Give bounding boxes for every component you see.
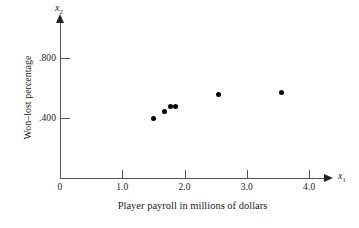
x-axis-tick-label: 0 bbox=[45, 182, 75, 193]
y-axis-tick-label: .800 bbox=[28, 53, 56, 63]
y-axis-variable-subscript: 2 bbox=[59, 8, 62, 15]
x-axis-caption: Player payroll in millions of dollars bbox=[60, 200, 325, 211]
data-point bbox=[162, 109, 167, 114]
x-axis-tick-label: 4.0 bbox=[294, 182, 324, 193]
data-point bbox=[151, 116, 156, 121]
y-axis-caption: Won–lost percentage bbox=[22, 28, 33, 168]
y-axis-line bbox=[60, 22, 61, 179]
x-axis-variable-subscript: 1 bbox=[342, 176, 345, 183]
y-axis-tick bbox=[61, 118, 70, 119]
scatter-plot-figure: x2 x1 Won–lost percentage Player payroll… bbox=[0, 0, 359, 228]
x-axis-tick bbox=[247, 170, 248, 178]
x-axis-tick-label: 1.0 bbox=[107, 182, 137, 193]
x-axis-tick bbox=[122, 170, 123, 178]
y-axis-variable-label: x2 bbox=[55, 2, 63, 15]
data-point bbox=[216, 92, 221, 97]
x-axis-variable-label: x1 bbox=[338, 170, 346, 183]
x-axis-tick-label: 3.0 bbox=[232, 182, 262, 193]
data-point bbox=[279, 90, 284, 95]
data-point bbox=[173, 104, 178, 109]
y-axis-tick bbox=[61, 58, 70, 59]
x-axis-line bbox=[60, 178, 325, 179]
y-axis-arrow-icon bbox=[56, 14, 64, 23]
x-axis-tick bbox=[185, 170, 186, 178]
x-axis-tick bbox=[309, 170, 310, 178]
x-axis-arrow-icon bbox=[324, 174, 333, 182]
y-axis-tick-label: .400 bbox=[28, 113, 56, 123]
x-axis-tick-label: 2.0 bbox=[170, 182, 200, 193]
